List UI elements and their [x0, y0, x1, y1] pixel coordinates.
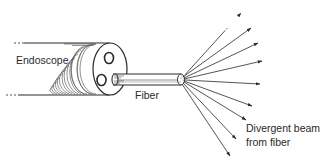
- endoscope-label: Endoscope: [16, 54, 69, 66]
- fiber-label: Fiber: [135, 89, 159, 101]
- beam-label-line2: from fiber: [246, 136, 290, 148]
- fiber: [112, 74, 181, 85]
- beam-label-line1: Divergent beam: [246, 122, 320, 134]
- endoscope-body: [6, 43, 127, 95]
- divergent-beam-arrows: [182, 13, 262, 156]
- endoscope-fiber-diagram: Endoscope Fiber Divergent beam from fibe…: [0, 0, 332, 168]
